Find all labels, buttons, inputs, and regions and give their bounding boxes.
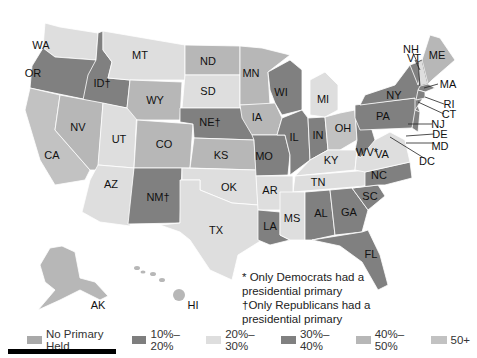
legend-swatch [281,336,296,344]
footnote-republicans-2: presidential primary [242,312,371,326]
state-label-wy: WY [146,95,164,106]
state-az[interactable] [82,165,134,226]
state-label-ne: NE† [199,117,220,128]
state-label-mn: MN [242,68,259,79]
legend-swatch [132,336,147,344]
state-label-sc: SC [362,191,377,202]
legend-item-40-50: 40%–50% [356,328,424,352]
state-label-sd: SD [200,86,215,97]
legend-swatch [27,336,42,344]
state-label-id: ID† [93,78,110,89]
state-label-la: LA [263,221,276,232]
state-label-ma: MA [440,79,457,90]
state-label-dc: DC [419,156,435,167]
state-label-ca: CA [44,150,59,161]
legend-label: 30%–40% [300,328,349,352]
legend-item-10-20: 10%–20% [132,328,200,352]
state-label-ar: AR [262,185,277,196]
state-label-ak: AK [91,300,106,311]
state-label-wi: WI [274,87,287,98]
state-label-nd: ND [200,56,216,67]
state-label-ky: KY [324,155,339,166]
legend-label: 50+ [451,334,471,346]
state-label-ok: OK [221,182,237,193]
legend-item-30-40: 30%–40% [281,328,349,352]
legend-item-50-plus: 50+ [431,334,471,346]
state-label-md: MD [431,141,448,152]
state-label-mt: MT [132,50,148,61]
state-label-co: CO [156,139,173,150]
state-label-ut: UT [112,134,127,145]
footnote: * Only Democrats had a presidential prim… [242,270,371,326]
state-label-wa: WA [32,40,49,51]
state-hi[interactable] [134,266,185,301]
state-label-tn: TN [311,177,326,188]
state-label-nv: NV [70,122,85,133]
state-label-ks: KS [214,150,229,161]
legend-swatch [206,336,221,344]
state-label-or: OR [25,68,42,79]
state-label-ga: GA [341,207,357,218]
state-label-pa: PA [376,111,390,122]
scale-bar [8,349,116,354]
state-label-al: AL [314,208,327,219]
legend-item-20-30: 20%–30% [206,328,274,352]
state-label-mi: MI [317,94,329,105]
state-label-ia: IA [252,112,262,123]
state-label-va: VA [375,149,389,160]
footnote-democrats: * Only Democrats had a [242,270,371,284]
state-label-de: DE [432,129,447,140]
state-label-il: IL [289,132,298,143]
legend-swatch [356,336,371,344]
state-label-ms: MS [284,213,301,224]
state-label-az: AZ [104,179,118,190]
legend-label: 40%–50% [375,328,424,352]
state-label-in: IN [313,130,324,141]
state-label-me: ME [429,50,446,61]
footnote-republicans: †Only Republicans had a [242,298,371,312]
state-label-nc: NC [371,170,387,181]
state-label-tx: TX [209,225,223,236]
state-label-hi: HI [188,300,199,311]
state-label-nh: NH [403,44,419,55]
footnote-democrats-2: presidential primary [242,284,371,298]
legend-label: 20%–30% [225,328,274,352]
legend-swatch [431,336,447,344]
state-ct[interactable] [416,90,425,100]
state-label-oh: OH [335,123,352,134]
legend-label: 10%–20% [150,328,199,352]
state-label-ny: NY [386,90,401,101]
state-label-nm: NM† [146,192,169,203]
state-label-mo: MO [255,151,273,162]
state-label-fl: FL [365,249,378,260]
